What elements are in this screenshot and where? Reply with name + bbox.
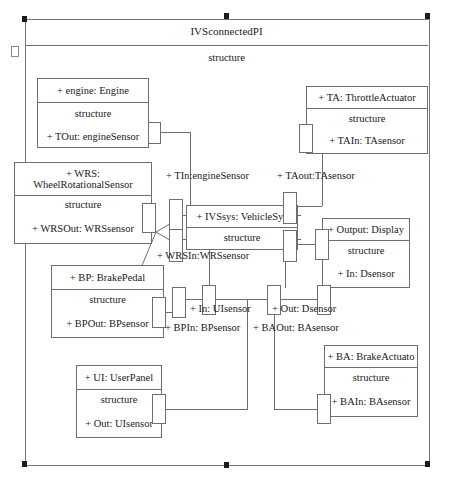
port-ivssys-bpin[interactable] xyxy=(172,287,186,318)
port-display-in[interactable] xyxy=(315,229,329,260)
part-ta-feature: + TAIn: TAsensor xyxy=(329,135,405,146)
part-ba-feature: + BAIn: BAsensor xyxy=(332,396,411,407)
part-ta-name: + TA: ThrottleActuator xyxy=(307,87,427,109)
diagram-canvas: IVSconnectedPI structure + engine: E xyxy=(0,0,457,485)
part-ivssys[interactable]: + IVSsys: VehicleSys structure xyxy=(186,205,298,250)
part-ba-compartment: structure xyxy=(353,372,390,383)
port-label-wrsin: + WRSIn:WRSsensor xyxy=(157,250,249,261)
frame-left-marker xyxy=(11,46,19,57)
part-ivssys-name: + IVSsys: VehicleSys xyxy=(187,206,297,228)
part-ba-name: + BA: BrakeActuato xyxy=(325,346,417,368)
part-ivssys-compartment: structure xyxy=(224,232,261,243)
port-label-tin-engine: + TIn:engineSensor xyxy=(166,170,249,181)
port-bp-bpout[interactable] xyxy=(152,297,166,328)
port-ivssys-outd[interactable] xyxy=(283,230,297,262)
part-engine[interactable]: + engine: Engine structure + TOut: engin… xyxy=(37,78,149,148)
part-display-name: + Output: Display xyxy=(323,219,409,241)
part-ta[interactable]: + TA: ThrottleActuator structure + TAIn:… xyxy=(306,86,428,154)
connector-ui-v xyxy=(247,299,248,409)
part-wrs-name: + WRS: WheelRotationalSensor xyxy=(15,163,151,196)
connector-ba-h-bottom xyxy=(274,409,318,410)
part-ui-name: + UI: UserPanel xyxy=(77,366,161,390)
part-ui-feature: + Out: UIsensor xyxy=(85,418,153,429)
port-wrs-wrsout[interactable] xyxy=(142,203,156,233)
connector-ui-h-bottom xyxy=(166,409,248,410)
part-bp[interactable]: + BP: BrakePedal structure + BPOut: BPse… xyxy=(51,265,164,338)
port-ta-tain[interactable] xyxy=(299,124,313,153)
part-engine-compartment: structure xyxy=(75,108,112,119)
part-wrs[interactable]: + WRS: WheelRotationalSensor structure +… xyxy=(14,162,152,244)
port-ui-out[interactable] xyxy=(152,394,166,424)
selection-handle-bottom-right[interactable] xyxy=(425,461,430,467)
selection-handle-top-right[interactable] xyxy=(425,13,430,19)
selection-handle-bottom-left[interactable] xyxy=(22,461,27,467)
port-label-baout: + BAOut: BAsensor xyxy=(253,322,339,333)
part-bp-feature: + BPOut: BPsensor xyxy=(66,318,148,329)
selection-handle-top-center[interactable] xyxy=(224,13,229,19)
part-display[interactable]: + Output: Display structure + In: Dsenso… xyxy=(322,218,410,288)
part-wrs-compartment: structure xyxy=(65,199,102,210)
selection-handle-top-left[interactable] xyxy=(22,16,27,22)
part-ui-compartment: structure xyxy=(101,394,138,405)
port-ivssys-taout[interactable] xyxy=(283,192,297,224)
port-engine-tout[interactable] xyxy=(148,122,161,144)
part-ui[interactable]: + UI: UserPanel structure + Out: UIsenso… xyxy=(76,365,162,438)
port-ivssys-tin[interactable] xyxy=(169,199,183,232)
part-wrs-feature: + WRSOut: WRSsensor xyxy=(32,223,134,234)
connector-taout-h1 xyxy=(296,206,322,207)
part-engine-name: + engine: Engine xyxy=(38,79,148,103)
part-display-feature: + In: Dsensor xyxy=(337,268,394,279)
port-label-in-ui: + In: UIsensor xyxy=(190,303,251,314)
part-ba[interactable]: + BA: BrakeActuato structure + BAIn: BAs… xyxy=(324,345,418,417)
port-ba-bain[interactable] xyxy=(317,394,331,424)
part-engine-feature: + TOut: engineSensor xyxy=(47,131,139,142)
port-label-out-d: + Out: Dsensor xyxy=(272,303,336,314)
port-label-bpin: + BPIn: BPsensor xyxy=(165,322,240,333)
part-display-compartment: structure xyxy=(348,245,385,256)
selection-handle-bottom-center[interactable] xyxy=(224,462,229,468)
port-label-taout: + TAout:TAsensor xyxy=(277,170,355,181)
part-bp-name: + BP: BrakePedal xyxy=(52,266,163,290)
part-bp-compartment: structure xyxy=(89,294,126,305)
part-ta-compartment: structure xyxy=(349,113,386,124)
